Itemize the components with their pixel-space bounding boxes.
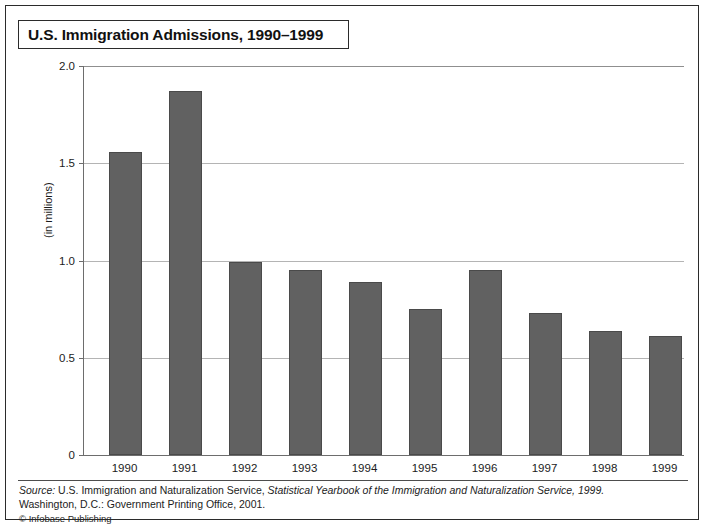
x-tick-label-1991: 1991 bbox=[160, 462, 210, 474]
bar-1994 bbox=[349, 282, 382, 455]
y-tick-label-1.0: 1.0 bbox=[41, 255, 75, 267]
y-tick-label-2.0: 2.0 bbox=[41, 60, 75, 72]
gridline-2.0 bbox=[84, 66, 684, 67]
bar-1991 bbox=[169, 91, 202, 455]
y-tick-mark-1.5 bbox=[79, 163, 84, 164]
x-tick-label-1995: 1995 bbox=[400, 462, 450, 474]
footer-divider bbox=[18, 480, 688, 481]
source-citation: Source: U.S. Immigration and Naturalizat… bbox=[19, 484, 687, 511]
source-line-1: Source: U.S. Immigration and Naturalizat… bbox=[19, 484, 687, 498]
x-tick-label-1994: 1994 bbox=[340, 462, 390, 474]
figure-frame: U.S. Immigration Admissions, 1990–1999 (… bbox=[5, 5, 699, 520]
source-label: Source: bbox=[19, 484, 55, 496]
source-publication: Statistical Yearbook of the Immigration … bbox=[268, 484, 605, 496]
x-tick-label-1990: 1990 bbox=[100, 462, 150, 474]
y-tick-mark-0.5 bbox=[79, 358, 84, 359]
y-axis-label: (in millions) bbox=[42, 222, 54, 238]
y-tick-mark-2.0 bbox=[79, 66, 84, 67]
bar-1990 bbox=[109, 152, 142, 455]
bar-1997 bbox=[529, 313, 562, 455]
plot-wrapper: (in millions) 19901991199219931994199519… bbox=[6, 6, 700, 521]
plot-area bbox=[83, 66, 684, 456]
source-line-2: Washington, D.C.: Government Printing Of… bbox=[19, 498, 687, 512]
x-tick-label-1997: 1997 bbox=[520, 462, 570, 474]
x-tick-label-1996: 1996 bbox=[460, 462, 510, 474]
bar-1996 bbox=[469, 270, 502, 455]
x-tick-label-1998: 1998 bbox=[580, 462, 630, 474]
x-tick-label-1992: 1992 bbox=[220, 462, 270, 474]
y-tick-label-0: 0 bbox=[41, 449, 75, 461]
bar-1995 bbox=[409, 309, 442, 455]
x-tick-label-1999: 1999 bbox=[640, 462, 690, 474]
x-tick-label-1993: 1993 bbox=[280, 462, 330, 474]
bar-1993 bbox=[289, 270, 322, 455]
y-tick-label-1.5: 1.5 bbox=[41, 157, 75, 169]
y-tick-label-0.5: 0.5 bbox=[41, 352, 75, 364]
y-tick-mark-1.0 bbox=[79, 261, 84, 262]
y-tick-mark-0 bbox=[79, 455, 84, 456]
bar-1992 bbox=[229, 262, 262, 455]
bar-1999 bbox=[649, 336, 682, 455]
source-agency: U.S. Immigration and Naturalization Serv… bbox=[55, 484, 267, 496]
bar-1998 bbox=[589, 331, 622, 455]
publisher-credit: © Infobase Publishing bbox=[19, 513, 112, 524]
